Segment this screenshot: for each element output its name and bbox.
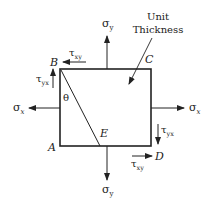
sigma-x-left-label: σx [13,101,25,116]
stress-element-diagram: σy σy σx σx τxy τyx τyx τxy B C A D E θ … [0,0,208,206]
sigma-y-top-label: σy [102,17,114,32]
sigma-y-bottom-label: σy [102,183,114,198]
tau-xy-bottom-label: τxy [131,158,144,172]
unit-thickness-line2: Thickness [133,24,184,35]
point-c-label: C [145,53,154,66]
unit-thickness-line1: Unit [147,11,169,22]
point-e-label: E [99,127,108,140]
angle-theta-label: θ [63,92,69,103]
point-d-label: D [154,150,164,163]
sigma-x-right-label: σx [189,101,201,116]
point-b-label: B [49,56,58,69]
tau-yx-right-label: τyx [161,124,174,138]
tau-xy-top-label: τxy [69,47,82,61]
point-a-label: A [47,141,56,154]
inclined-plane-line [61,70,100,146]
tau-yx-left-label: τyx [36,73,49,87]
